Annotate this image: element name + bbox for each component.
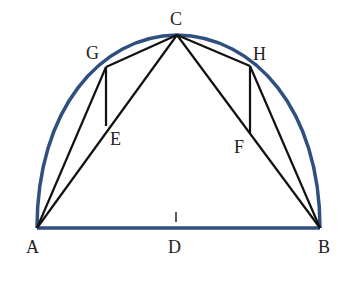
label-f: F [234, 137, 244, 157]
label-h: H [253, 44, 266, 64]
label-c: C [170, 9, 182, 29]
label-g: G [86, 43, 99, 63]
segment-ac [37, 35, 177, 228]
label-e: E [110, 129, 121, 149]
label-a: A [26, 237, 39, 257]
label-d: D [168, 237, 181, 257]
label-b: B [318, 237, 330, 257]
segment-cb [177, 35, 320, 228]
geometry-diagram: A B C D E F G H [0, 0, 349, 285]
